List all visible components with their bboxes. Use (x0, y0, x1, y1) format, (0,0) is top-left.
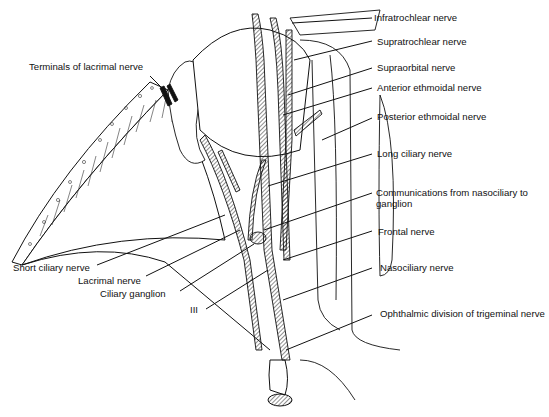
label-long-ciliary-nerve: Long ciliary nerve (377, 148, 452, 159)
label-terminals-lacrimal-nerve: Terminals of lacrimal nerve (29, 61, 143, 72)
label-nasociliary-nerve: Nasociliary nerve (380, 262, 454, 273)
label-ophthalmic-division-trigeminal: Ophthalmic division of trigeminal nerve (380, 308, 549, 319)
label-anterior-ethmoidal-nerve: Anterior ethmoidal nerve (377, 82, 482, 93)
label-frontal-nerve: Frontal nerve (378, 226, 435, 237)
label-oculomotor-nerve-iii: III (190, 304, 198, 315)
label-lacrimal-nerve: Lacrimal nerve (78, 275, 141, 286)
optic-nerve-stump (268, 360, 292, 406)
label-supraorbital-nerve: Supraorbital nerve (377, 62, 455, 73)
label-communications-nasociliary-ganglion: Communications from nasociliary to gangl… (376, 187, 549, 209)
label-posterior-ethmoidal-nerve: Posterior ethmoidal nerve (377, 111, 486, 122)
label-infratrochlear-nerve: Infratrochlear nerve (374, 12, 457, 23)
label-supratrochlear-nerve: Supratrochlear nerve (377, 36, 467, 47)
label-ciliary-ganglion: Ciliary ganglion (100, 288, 166, 299)
label-short-ciliary-nerve: Short ciliary nerve (13, 262, 90, 273)
